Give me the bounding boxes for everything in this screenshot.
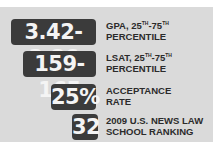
stat-value-lsat: 159-165 (23, 51, 96, 77)
stat-label-gpa: GPA, 25TH-75TH PERCENTILE (106, 20, 169, 42)
stat-row-gpa: 3.42-3.86 GPA, 25TH-75TH PERCENTILE (0, 19, 213, 49)
stat-row-lsat: 159-165 LSAT, 25TH-75TH PERCENTILE (0, 51, 213, 81)
stat-label-ranking: 2009 U.S. NEWS LAW SCHOOL RANKING (106, 115, 203, 137)
stat-value-gpa: 3.42-3.86 (11, 19, 96, 45)
stat-value-acceptance: 25% (51, 84, 96, 110)
stat-label-acceptance: ACCEPTANCE RATE (106, 85, 171, 107)
stat-label-lsat: LSAT, 25TH-75TH PERCENTILE (106, 52, 172, 74)
stat-row-acceptance: 25% ACCEPTANCE RATE (0, 84, 213, 114)
stats-panel: 3.42-3.86 GPA, 25TH-75TH PERCENTILE 159-… (0, 7, 213, 142)
stat-row-ranking: 32 2009 U.S. NEWS LAW SCHOOL RANKING (0, 114, 213, 144)
stat-value-ranking: 32 (72, 114, 98, 140)
